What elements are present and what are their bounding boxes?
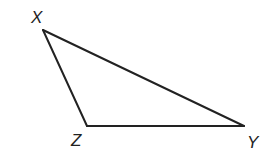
triangle-diagram: X Z Y — [0, 0, 263, 154]
vertex-label-y: Y — [247, 133, 260, 152]
edge-xy — [43, 30, 244, 126]
edge-zx — [43, 30, 87, 126]
vertex-label-z: Z — [70, 131, 82, 150]
vertex-label-x: X — [30, 8, 43, 27]
